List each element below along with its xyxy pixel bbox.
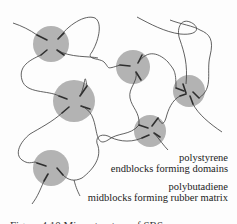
- domain-2: [116, 50, 150, 84]
- domain-6: [33, 150, 69, 186]
- figure-caption: Figure 4.10 Microstructure of SBS: [10, 219, 163, 224]
- polybutadiene-label-line2: midblocks forming rubber matrix: [88, 193, 228, 204]
- domain-3: [173, 75, 205, 107]
- polystyrene-label-line1: polystyrene: [179, 153, 228, 164]
- polystyrene-label-line2: endblocks forming domains: [111, 164, 228, 175]
- polybutadiene-label-line1: polybutadiene: [169, 182, 228, 193]
- sbs-microstructure-diagram: polystyrene endblocks forming domains po…: [0, 0, 237, 224]
